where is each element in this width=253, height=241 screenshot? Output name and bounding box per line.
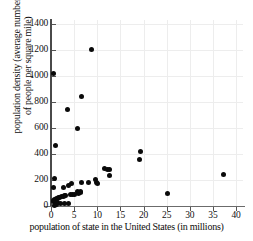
- y-axis-tick: [52, 154, 56, 155]
- x-axis-tick-label: 0: [39, 211, 63, 221]
- gridline-vertical: [120, 20, 121, 206]
- y-axis-label: population density (average number of pe…: [12, 0, 34, 161]
- gridline-vertical: [236, 20, 237, 206]
- data-point: [86, 180, 91, 185]
- gridline-horizontal: [51, 50, 243, 51]
- gridline-horizontal: [51, 76, 243, 77]
- x-axis-tick-label: 25: [155, 211, 179, 221]
- data-point: [221, 172, 226, 177]
- gridline-vertical: [144, 20, 145, 206]
- y-axis-tick: [52, 24, 56, 25]
- gridline-vertical: [74, 20, 75, 206]
- y-axis-label-line-2: of people per square mile): [23, 0, 34, 161]
- y-axis-tick: [52, 50, 56, 51]
- gridline-vertical: [167, 20, 168, 206]
- data-point: [66, 201, 71, 206]
- y-axis-tick: [52, 76, 56, 77]
- data-point: [95, 181, 100, 186]
- gridline-horizontal: [51, 24, 243, 25]
- x-axis-tick-label: 35: [201, 211, 225, 221]
- plot-area: [51, 20, 243, 206]
- y-axis-tick: [52, 128, 56, 129]
- data-point: [79, 180, 84, 185]
- y-axis-tick-label: 0: [4, 201, 48, 211]
- data-point: [165, 191, 170, 196]
- data-point: [107, 173, 112, 178]
- y-axis-tick-label: 200: [4, 175, 48, 185]
- scatter-plot-figure: 0200400600800100012001400051015202530354…: [0, 0, 253, 241]
- gridline-horizontal: [51, 154, 243, 155]
- x-axis-tick-label: 15: [108, 211, 132, 221]
- x-axis-tick-label: 5: [62, 211, 86, 221]
- data-point: [66, 183, 71, 188]
- x-axis-tick-label: 40: [224, 211, 248, 221]
- data-point: [79, 94, 84, 99]
- x-axis-tick-label: 30: [178, 211, 202, 221]
- data-point: [52, 176, 57, 181]
- x-axis-tick-label: 10: [85, 211, 109, 221]
- gridline-horizontal: [51, 102, 243, 103]
- gridline-vertical: [213, 20, 214, 206]
- y-axis-tick: [52, 102, 56, 103]
- gridline-vertical: [190, 20, 191, 206]
- x-axis-label: population of state in the United States…: [0, 222, 253, 233]
- x-axis-tick-label: 20: [132, 211, 156, 221]
- data-point: [52, 203, 57, 208]
